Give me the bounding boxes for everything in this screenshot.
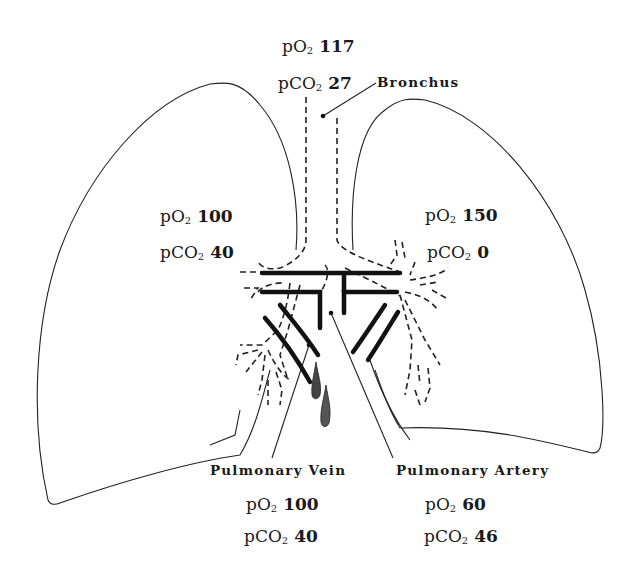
- drop-shape-1: [312, 362, 321, 399]
- po2-prefix: pO: [282, 36, 307, 56]
- pco2-value: 40: [294, 526, 318, 546]
- pco2-prefix: pCO: [160, 242, 198, 262]
- pulmonary-artery-dot: [329, 311, 334, 316]
- left-lung-pco2: pCO240: [160, 244, 234, 262]
- pco2-prefix: pCO: [244, 526, 282, 546]
- drop-shape-2: [321, 385, 330, 427]
- trachea-left-wall: [258, 97, 306, 269]
- pco2-value: 40: [210, 242, 234, 262]
- bronchus-pco2: pCO227: [278, 75, 352, 93]
- left-lung-po2: pO2100: [160, 208, 233, 226]
- right-lung-pco2: pCO20: [427, 244, 489, 262]
- pulmonary-vein-leader: [272, 345, 309, 458]
- left-lung-outline: [37, 83, 297, 504]
- pco2-subscript: 2: [462, 535, 468, 546]
- pco2-value: 27: [328, 73, 352, 93]
- pco2-value: 0: [477, 242, 489, 262]
- lung-diagram: pO2117 pCO227 Bronchus pO2100 pCO240 pO2…: [0, 0, 632, 576]
- po2-prefix: pO: [160, 206, 185, 226]
- bronchus-po2: pO2117: [282, 38, 355, 56]
- right-bronchioles: [322, 240, 448, 405]
- po2-prefix: pO: [246, 494, 271, 514]
- pco2-prefix: pCO: [278, 73, 316, 93]
- pulmonary-vein-label: Pulmonary Vein: [210, 464, 346, 478]
- pulmonary-artery-label: Pulmonary Artery: [396, 464, 549, 478]
- pulmonary-artery-pco2: pCO246: [424, 528, 498, 546]
- pco2-subscript: 2: [198, 251, 204, 262]
- pco2-subscript: 2: [282, 535, 288, 546]
- right-lung-po2: pO2150: [425, 207, 498, 225]
- bronchus-dot: [321, 114, 326, 119]
- po2-prefix: pO: [425, 205, 450, 225]
- po2-subscript: 2: [450, 214, 456, 225]
- right-lung-outline: [352, 99, 603, 453]
- pco2-subscript: 2: [465, 251, 471, 262]
- bronchus-label: Bronchus: [377, 76, 459, 90]
- po2-subscript: 2: [450, 503, 456, 514]
- po2-value: 100: [283, 494, 319, 514]
- pco2-value: 46: [474, 526, 498, 546]
- pulmonary-vein-pco2: pCO240: [244, 528, 318, 546]
- trachea-right-wall: [337, 118, 400, 272]
- po2-value: 100: [197, 206, 233, 226]
- po2-value: 150: [462, 205, 498, 225]
- po2-subscript: 2: [307, 45, 313, 56]
- pulmonary-vein-dot: [307, 343, 312, 348]
- pco2-prefix: pCO: [424, 526, 462, 546]
- po2-value: 117: [319, 36, 355, 56]
- pco2-subscript: 2: [316, 82, 322, 93]
- po2-value: 60: [462, 494, 486, 514]
- po2-prefix: pO: [425, 494, 450, 514]
- pco2-prefix: pCO: [427, 242, 465, 262]
- pulmonary-vein-po2: pO2100: [246, 496, 319, 514]
- pulmonary-artery-po2: pO260: [425, 496, 486, 514]
- po2-subscript: 2: [271, 503, 277, 514]
- po2-subscript: 2: [185, 215, 191, 226]
- left-vein-line: [210, 410, 240, 445]
